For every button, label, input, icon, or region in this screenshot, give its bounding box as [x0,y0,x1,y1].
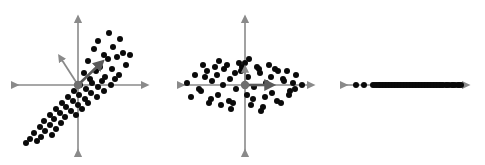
data-point [204,68,210,74]
data-point [272,66,278,72]
data-point [42,128,48,134]
data-point [214,72,220,78]
data-point [248,102,254,108]
panel-rotated-scatter [162,0,325,165]
data-point [212,64,218,70]
data-point [230,100,236,106]
data-point [57,110,63,116]
data-point [76,92,82,98]
data-point [280,76,286,82]
data-point [258,108,264,114]
data-point [244,92,250,98]
data-point [95,84,101,90]
data-point [106,30,112,36]
data-point [88,90,94,96]
data-point [101,88,107,94]
data-point [110,44,116,50]
data-point [269,90,275,96]
data-point [220,82,226,88]
panel-2-svg [162,0,325,165]
data-point [112,76,118,82]
data-point [95,38,101,44]
data-point [127,52,133,58]
data-point [232,70,238,76]
data-point [79,106,85,112]
data-point [209,78,215,84]
data-point [254,64,260,70]
panel-1-svg [0,0,162,165]
data-point [292,86,298,92]
data-point [218,102,224,108]
principal-component-2-arrow [60,57,78,85]
data-point [206,100,212,106]
data-point [246,56,252,62]
data-point [227,76,233,82]
data-point [262,94,268,100]
data-point [123,62,129,68]
data-point [290,80,296,86]
origin-marker [74,81,82,89]
data-point [200,62,206,68]
data-point [450,82,456,88]
data-point [293,72,299,78]
data-point [51,116,57,122]
data-point [268,74,274,80]
data-point [224,62,230,68]
data-point [73,112,79,118]
data-point [81,70,87,76]
data-point [192,72,198,78]
data-point [250,96,256,102]
pca-three-panel-figure [0,0,485,165]
data-point [68,108,74,114]
data-point [62,114,68,120]
data-point [37,124,43,130]
data-point [284,68,290,74]
data-point [184,80,190,86]
data-point [85,100,91,106]
data-point [120,50,126,56]
data-point [89,80,95,86]
data-point [109,66,115,72]
data-point [94,94,100,100]
data-point [196,86,202,92]
data-point [91,46,97,52]
data-point [361,82,367,88]
data-point [353,82,359,88]
data-point [70,98,76,104]
panel-projected-line [325,0,485,165]
data-point [236,60,242,66]
data-point [286,92,292,98]
data-point [228,106,234,112]
panel-3-svg [325,0,485,165]
data-point [53,126,59,132]
data-point [202,74,208,80]
data-point [238,68,244,74]
data-point [117,36,123,42]
data-point [49,132,55,138]
data-point [34,138,40,144]
data-point [278,100,284,106]
data-point [47,122,53,128]
data-point [31,130,37,136]
data-point [188,94,194,100]
data-point [99,78,105,84]
data-point [233,86,239,92]
data-point [456,82,462,88]
data-point [105,56,111,62]
data-point [266,62,272,68]
data-point [23,140,29,146]
data-point [41,118,47,124]
origin-marker [241,81,249,89]
data-point [58,120,64,126]
data-point [299,82,305,88]
data-point [215,92,221,98]
panel-correlated-scatter [0,0,162,165]
data-point [444,82,450,88]
data-point [63,104,69,110]
data-point [71,88,77,94]
data-point [216,58,222,64]
data-point [108,82,114,88]
data-point [83,86,89,92]
data-point [85,58,91,64]
data-point [65,94,71,100]
